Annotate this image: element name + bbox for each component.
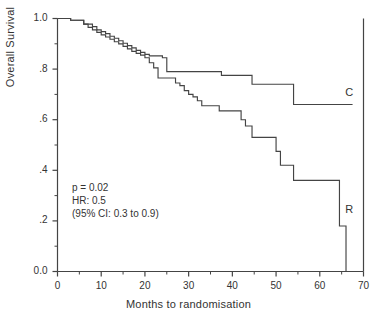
y-tick-label: 1.0 <box>22 12 48 23</box>
y-tick-label: .2 <box>22 214 48 225</box>
y-tick-label: 0.0 <box>22 265 48 276</box>
x-tick-label: 70 <box>352 280 376 291</box>
hazard-ratio-text: HR: 0.5 <box>72 194 159 207</box>
x-tick-label: 10 <box>89 280 113 291</box>
chart-curves <box>58 19 353 272</box>
x-tick-label: 50 <box>264 280 288 291</box>
x-tick-label: 0 <box>46 280 70 291</box>
y-axis-title: Overall Survival <box>4 0 16 107</box>
survival-curve-r <box>58 19 347 272</box>
curve-label-r: R <box>345 203 353 215</box>
y-tick-label: .4 <box>22 164 48 175</box>
curve-label-c: C <box>345 86 353 98</box>
p-value-text: p = 0.02 <box>72 181 159 194</box>
chart-axes <box>53 19 364 277</box>
statistics-annotation: p = 0.02 HR: 0.5 (95% CI: 0.3 to 0.9) <box>72 181 159 220</box>
x-tick-label: 30 <box>177 280 201 291</box>
x-axis-title: Months to randomisation <box>126 298 251 310</box>
kaplan-meier-survival-chart: Overall Survival Months to randomisation… <box>0 0 387 321</box>
survival-curve-c <box>58 19 353 105</box>
confidence-interval-text: (95% CI: 0.3 to 0.9) <box>72 207 159 220</box>
x-tick-label: 40 <box>220 280 244 291</box>
y-tick-label: .6 <box>22 113 48 124</box>
plot-canvas <box>0 0 387 321</box>
x-tick-label: 20 <box>133 280 157 291</box>
x-tick-label: 60 <box>308 280 332 291</box>
y-tick-label: .8 <box>22 63 48 74</box>
